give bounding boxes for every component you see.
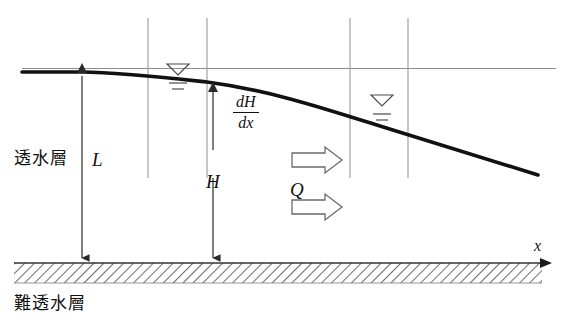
x-axis-label: x — [534, 238, 541, 254]
discharge-Q-label: Q — [290, 180, 304, 199]
diagram-canvas — [0, 0, 562, 330]
x-axis-arrow — [540, 258, 552, 268]
impermeable-layer-label: 難透水層 — [14, 295, 86, 312]
flow-arrow-upper — [292, 147, 342, 173]
observation-well-lines — [148, 18, 408, 178]
gradient-numerator: dH — [233, 93, 259, 112]
thickness-L-label: L — [92, 150, 103, 169]
permeable-layer-label: 透水層 — [14, 150, 68, 167]
head-H-label: H — [206, 172, 220, 191]
groundwater-seepage-figure: 透水層 L H Q dH dx x 難透水層 — [0, 0, 562, 330]
hydraulic-gradient-label: dH dx — [233, 93, 259, 132]
water-table-symbol-downstream — [371, 95, 393, 120]
dimension-arrow-L — [77, 63, 87, 258]
impermeable-layer-band — [14, 263, 542, 283]
gradient-denominator: dx — [233, 113, 259, 132]
dimension-arrow-H — [208, 82, 218, 258]
